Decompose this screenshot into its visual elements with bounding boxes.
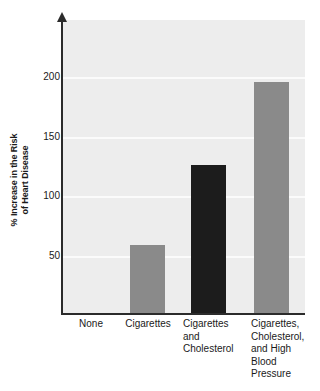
bar-cigarettes[interactable] (130, 245, 165, 313)
y-tick-label-50: 50 (34, 251, 60, 261)
bar-cigarettes-cholesterol-high-blood-pressure[interactable] (254, 82, 289, 313)
y-axis-tick-labels: 200 150 100 50 (32, 0, 60, 391)
plot-area (63, 20, 305, 313)
x-label-cigarettes-and-cholesterol-line-3: Cholesterol (183, 343, 249, 356)
bar-chart-figure: % Increase in the Risk of Heart Disease … (0, 0, 320, 391)
x-label-cigarettes-and-cholesterol-line-2: and (183, 331, 249, 344)
gridline-200 (63, 77, 305, 79)
x-label-cigarettes: Cigarettes (117, 318, 179, 331)
y-axis-title-line-2: of Heart Disease (20, 134, 31, 227)
x-label-cchbp-line-5: Pressure (251, 368, 320, 381)
x-label-cchbp-line-1: Cigarettes, (251, 318, 320, 331)
x-label-none-line-1: None (63, 318, 119, 331)
y-tick-label-200: 200 (34, 72, 60, 82)
x-label-cigarettes-and-cholesterol: Cigarettes and Cholesterol (183, 318, 249, 356)
x-label-cchbp-line-3: and High (251, 343, 320, 356)
x-axis-line (61, 313, 305, 315)
bar-cigarettes-and-cholesterol[interactable] (191, 165, 226, 313)
y-tick-label-150: 150 (34, 132, 60, 142)
x-label-cigarettes-line-1: Cigarettes (117, 318, 179, 331)
x-label-cchbp-line-4: Blood (251, 356, 320, 369)
y-axis-title-line-1: % Increase in the Risk (9, 134, 20, 227)
y-tick-label-100: 100 (34, 191, 60, 201)
x-label-none: None (63, 318, 119, 331)
x-axis-category-labels: None Cigarettes Cigarettes and Cholester… (63, 318, 313, 390)
x-label-cigarettes-and-cholesterol-line-1: Cigarettes (183, 318, 249, 331)
y-axis-line (61, 20, 63, 314)
x-label-cchbp-line-2: Cholesterol, (251, 331, 320, 344)
x-label-cigarettes-cholesterol-high-blood-pressure: Cigarettes, Cholesterol, and High Blood … (251, 318, 320, 381)
